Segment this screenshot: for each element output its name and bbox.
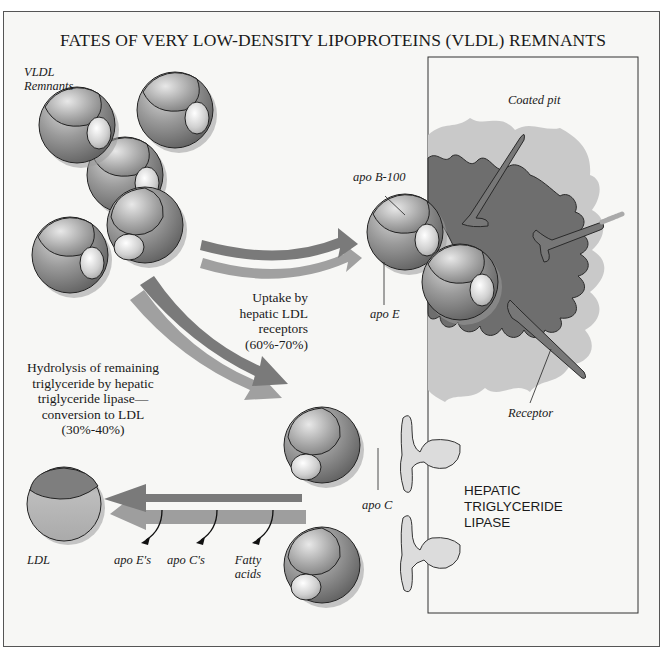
apo-cs-label: apo C's (167, 553, 205, 567)
uptake-label: Uptake by hepatic LDL receptors (60%-70%… (208, 290, 308, 352)
figure-title: FATES OF VERY LOW-DENSITY LIPOPROTEINS (… (0, 30, 666, 50)
hydrolysis-label: Hydrolysis of remaining triglyceride by … (18, 360, 168, 438)
apo-c-label: apo C (362, 498, 392, 512)
fatty-acids-label: Fatty acids (228, 553, 268, 582)
lipase-bound-particles (284, 407, 364, 608)
illustration (0, 0, 666, 653)
vldl-remnants-label: VLDL Remnants (24, 65, 73, 94)
ldl-particle (27, 467, 105, 545)
coated-pit-label: Coated pit (508, 93, 560, 107)
receptor-label: Receptor (508, 406, 553, 420)
ldl-conversion-arrow (104, 484, 306, 530)
apo-es-label: apo E's (114, 553, 151, 567)
uptake-arrow (200, 228, 362, 279)
apo-e-label: apo E (370, 307, 400, 321)
apo-b100-label: apo B-100 (353, 170, 405, 184)
ldl-label: LDL (27, 553, 50, 567)
hepatic-tg-lipase-label: HEPATIC TRIGLYCERIDE LIPASE (464, 483, 563, 532)
vldl-remnant-cluster (32, 72, 217, 298)
